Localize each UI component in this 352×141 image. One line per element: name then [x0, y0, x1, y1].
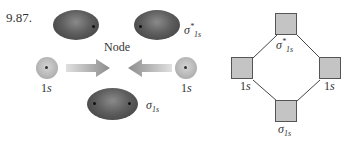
bonding-level-box	[275, 100, 297, 122]
atomic-orbital-left-label: 1s	[41, 81, 52, 96]
problem-number: 9.87.	[6, 10, 32, 26]
arrow-right-icon	[66, 59, 110, 77]
arrow-left-icon	[128, 59, 172, 77]
antibonding-label: σ*1s	[184, 22, 201, 39]
nucleus-dot	[93, 102, 96, 105]
bonding-label: σ1s	[146, 98, 159, 114]
antibonding-level-box	[275, 13, 297, 35]
node-label: Node	[104, 40, 130, 55]
nucleus-dot	[139, 25, 142, 28]
atomic-level-right-box	[319, 57, 341, 79]
bonding-orbital	[87, 88, 138, 120]
antibonding-level-label: σ*1s	[276, 37, 293, 54]
atomic-orbital-left	[36, 57, 58, 79]
atomic-level-left-box	[231, 57, 253, 79]
atomic-orbital-right	[175, 57, 197, 79]
atomic-orbital-right-label: 1s	[181, 81, 192, 96]
antibonding-lobe-right	[134, 10, 180, 40]
nucleus-dot	[128, 102, 131, 105]
nucleus-dot	[45, 66, 48, 69]
nucleus-dot	[92, 25, 95, 28]
nucleus-dot	[184, 66, 187, 69]
antibonding-lobe-left	[53, 10, 99, 40]
atomic-level-right-label: 1s	[324, 79, 335, 94]
bonding-level-label: σ1s	[278, 122, 291, 138]
atomic-level-left-label: 1s	[240, 79, 251, 94]
